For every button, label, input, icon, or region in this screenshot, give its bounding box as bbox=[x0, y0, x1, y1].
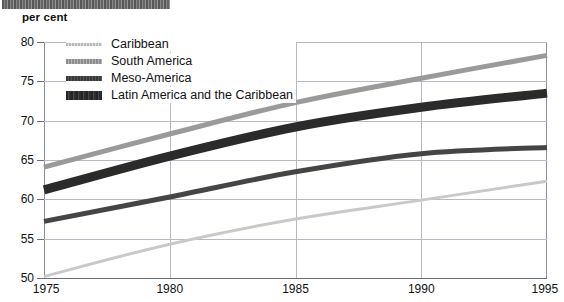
chart-container: per cent 50556065707580 1975198019851990… bbox=[0, 0, 564, 302]
series-line-caribbean bbox=[44, 181, 547, 276]
x-tick-label-1980: 1980 bbox=[156, 282, 183, 296]
y-tick-60 bbox=[37, 199, 44, 200]
y-tick-80 bbox=[37, 42, 44, 43]
y-tick-70 bbox=[37, 121, 44, 122]
x-tick-label-1975: 1975 bbox=[33, 282, 60, 296]
legend-swatch-icon-latin-america bbox=[66, 91, 102, 100]
y-tick-label-80: 80 bbox=[21, 35, 34, 49]
y-tick-65 bbox=[37, 160, 44, 161]
legend-label: Latin America and the Caribbean bbox=[111, 89, 293, 102]
y-tick-label-65: 65 bbox=[21, 153, 34, 167]
series-line-latin-america-and-the-caribbean bbox=[44, 93, 547, 190]
gridline-y-50 bbox=[44, 278, 547, 279]
legend-label: Meso-America bbox=[111, 72, 192, 85]
chart-legend: CaribbeanSouth AmericaMeso-AmericaLatin … bbox=[66, 36, 296, 103]
series-line-meso-america bbox=[44, 147, 547, 221]
y-tick-label-60: 60 bbox=[21, 192, 34, 206]
x-tick-label-1990: 1990 bbox=[408, 282, 435, 296]
legend-swatch-icon-south-america bbox=[66, 59, 102, 64]
y-tick-label-70: 70 bbox=[21, 114, 34, 128]
y-tick-55 bbox=[37, 239, 44, 240]
y-axis-unit-label: per cent bbox=[22, 11, 68, 23]
legend-swatch-icon-meso-america bbox=[66, 76, 102, 81]
x-tick-label-1985: 1985 bbox=[282, 282, 309, 296]
legend-item-meso-america[interactable]: Meso-America bbox=[66, 70, 296, 86]
legend-item-south-america[interactable]: South America bbox=[66, 53, 296, 69]
y-tick-75 bbox=[37, 81, 44, 82]
legend-swatch-icon-caribbean bbox=[66, 43, 102, 46]
y-tick-50 bbox=[37, 278, 44, 279]
x-tick-label-1995: 1995 bbox=[532, 282, 559, 296]
y-tick-label-55: 55 bbox=[21, 232, 34, 246]
legend-item-caribbean[interactable]: Caribbean bbox=[66, 36, 296, 52]
legend-label: Caribbean bbox=[111, 38, 169, 51]
scan-artifact-bar bbox=[2, 0, 170, 9]
y-tick-label-75: 75 bbox=[21, 74, 34, 88]
legend-item-latin-america[interactable]: Latin America and the Caribbean bbox=[66, 87, 296, 103]
legend-label: South America bbox=[111, 55, 192, 68]
